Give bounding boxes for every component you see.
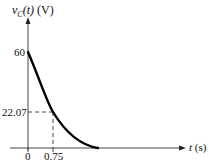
x-tick-label-0: 0 (25, 151, 31, 162)
chart-canvas (0, 0, 211, 162)
y-tick-label-60: 60 (14, 47, 25, 58)
y-tick-label-2207: 22.07 (2, 107, 27, 118)
y-label-unit: (V) (37, 3, 54, 17)
y-label-arg: (t) (23, 3, 34, 17)
x-axis-label: t (s) (189, 142, 206, 153)
voltage-decay-curve (28, 52, 98, 148)
x-axis-arrow-icon (179, 146, 186, 151)
x-tick-label-075: 0.75 (44, 151, 63, 162)
x-label-unit: (s) (195, 141, 207, 153)
x-label-var: t (189, 141, 192, 153)
y-axis-label: vC(t) (V) (12, 5, 54, 20)
